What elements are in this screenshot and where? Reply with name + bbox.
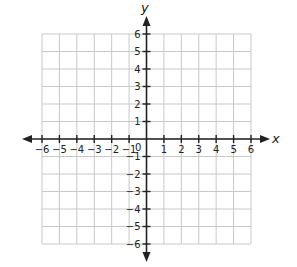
- y-tick-label: 4: [134, 64, 140, 75]
- y-tick-label: 6: [134, 29, 140, 40]
- x-tick-label: 5: [230, 144, 236, 155]
- x-tick-label: 1: [161, 144, 167, 155]
- y-tick-label: −4: [126, 204, 141, 215]
- y-tick-label: −5: [126, 221, 141, 232]
- x-tick-label: 2: [178, 144, 184, 155]
- x-axis-label: x: [271, 131, 280, 146]
- y-tick-label: −6: [126, 239, 141, 250]
- x-tick-label: 4: [213, 144, 219, 155]
- x-tick-label: 6: [248, 144, 254, 155]
- coordinate-plane: −6−5−4−3−2−1123456−6−5−4−3−2−1123456 x y…: [0, 0, 297, 267]
- y-tick-label: 2: [134, 99, 140, 110]
- y-tick-label: 3: [134, 81, 140, 92]
- x-axis-right-arrow-icon: [260, 135, 270, 143]
- x-tick-label: −3: [87, 144, 102, 155]
- y-axis-label: y: [140, 0, 149, 15]
- x-tick-label: 3: [196, 144, 202, 155]
- y-tick-label: −2: [126, 169, 141, 180]
- y-tick-label: 1: [134, 116, 140, 127]
- x-tick-label: −2: [104, 144, 119, 155]
- x-tick-label: −6: [35, 144, 50, 155]
- origin-label: 0: [135, 142, 141, 153]
- x-tick-label: −5: [52, 144, 67, 155]
- y-tick-label: −3: [126, 186, 141, 197]
- x-axis-left-arrow-icon: [22, 135, 32, 143]
- y-tick-label: 5: [134, 46, 140, 57]
- coordinate-grid-svg: −6−5−4−3−2−1123456−6−5−4−3−2−1123456 x y…: [0, 0, 297, 267]
- y-axis-down-arrow-icon: [143, 252, 151, 262]
- x-tick-label: −4: [69, 144, 84, 155]
- y-axis-up-arrow-icon: [143, 16, 151, 26]
